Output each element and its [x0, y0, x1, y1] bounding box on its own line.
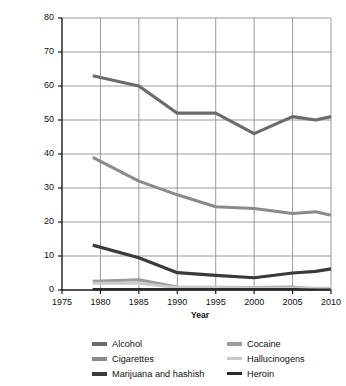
- chart-figure: Percent of U.S. Population 12 Years and …: [0, 0, 346, 386]
- legend-label-hallucinogens: Hallucinogens: [247, 354, 305, 364]
- legend-label-cocaine: Cocaine: [247, 339, 281, 349]
- legend-item-marijuana-and-hashish: Marijuana and hashish: [92, 369, 227, 379]
- legend-row: Cigarettes Hallucinogens: [92, 351, 342, 366]
- axis-tick-marks: [58, 18, 331, 294]
- series-lines: [93, 76, 331, 290]
- legend-row: Marijuana and hashish Heroin: [92, 366, 342, 381]
- y-tick-label: 20: [30, 216, 54, 226]
- x-tick-label: 1985: [119, 297, 159, 307]
- x-tick-label: 1990: [157, 297, 197, 307]
- legend-swatch-marijuana-and-hashish: [92, 372, 107, 376]
- y-tick-label: 60: [30, 80, 54, 90]
- legend-label-heroin: Heroin: [247, 369, 274, 379]
- legend-swatch-heroin: [227, 372, 242, 375]
- y-tick-label: 10: [30, 250, 54, 260]
- legend-swatch-cocaine: [227, 342, 242, 346]
- legend-row: Alcohol Cocaine: [92, 336, 342, 351]
- x-tick-label: 1980: [80, 297, 120, 307]
- x-tick-label: 1975: [42, 297, 82, 307]
- chart-legend: Alcohol Cocaine Cigarettes Hallucinogens…: [92, 336, 342, 381]
- legend-label-marijuana-and-hashish: Marijuana and hashish: [112, 369, 204, 379]
- series-line-alcohol: [93, 76, 331, 134]
- x-tick-label: 1995: [196, 297, 236, 307]
- series-line-cigarettes: [93, 157, 331, 215]
- legend-item-hallucinogens: Hallucinogens: [227, 354, 342, 364]
- series-line-marijuana-and-hashish: [93, 245, 331, 278]
- y-tick-label: 40: [30, 148, 54, 158]
- x-tick-label: 2005: [273, 297, 313, 307]
- y-tick-label: 0: [30, 284, 54, 294]
- y-tick-label: 50: [30, 114, 54, 124]
- legend-swatch-cigarettes: [92, 357, 107, 361]
- legend-swatch-alcohol: [92, 342, 107, 346]
- x-tick-label: 2010: [311, 297, 346, 307]
- y-tick-label: 80: [30, 12, 54, 22]
- legend-item-cocaine: Cocaine: [227, 339, 342, 349]
- legend-label-alcohol: Alcohol: [112, 339, 142, 349]
- legend-label-cigarettes: Cigarettes: [112, 354, 154, 364]
- legend-item-heroin: Heroin: [227, 369, 342, 379]
- legend-item-alcohol: Alcohol: [92, 339, 227, 349]
- legend-item-cigarettes: Cigarettes: [92, 354, 227, 364]
- x-tick-label: 2000: [234, 297, 274, 307]
- y-tick-label: 30: [30, 182, 54, 192]
- y-tick-label: 70: [30, 46, 54, 56]
- x-axis-title: Year: [55, 310, 345, 320]
- legend-swatch-hallucinogens: [227, 357, 242, 360]
